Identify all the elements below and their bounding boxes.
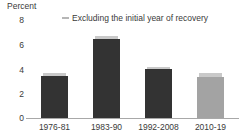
x-tick-label-2010-19: 2010-19: [187, 122, 234, 132]
y-tick-label-0: 0: [2, 114, 24, 123]
x-tick-label-1976-81: 1976-81: [31, 122, 78, 132]
bar-chart: Percent Excluding the initial year of re…: [0, 0, 243, 137]
bar-main-1976-81: [41, 76, 68, 118]
x-tick-label-1992-2008: 1992-2008: [134, 122, 183, 132]
y-tick-label-8: 8: [2, 16, 24, 25]
y-tick-label-4: 4: [2, 66, 24, 75]
x-tick-label-1983-90: 1983-90: [83, 122, 130, 132]
bar-main-1983-90: [93, 39, 120, 118]
x-axis-line: [26, 118, 239, 119]
bar-main-1992-2008: [145, 69, 172, 119]
bar-main-2010-19: [197, 77, 224, 119]
plot-area: 8 6 4 2 0 1976-81 1983-90 1992-2008 2010…: [0, 0, 243, 137]
y-tick-label-2: 2: [2, 90, 24, 99]
y-tick-label-6: 6: [2, 41, 24, 50]
